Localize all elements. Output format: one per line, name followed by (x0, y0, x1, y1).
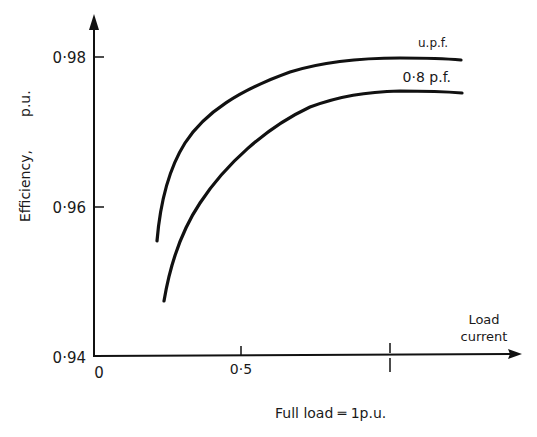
curve-upf (157, 58, 461, 241)
curve-08pf (164, 91, 462, 301)
x-axis-title-line1: Load (468, 312, 499, 327)
efficiency-chart: 0·98 0·96 0·94 Efficiency, p.u. 0 0·5 Lo… (0, 0, 537, 437)
y-axis-arrow-icon (89, 14, 99, 30)
y-tick-label-096: 0·96 (53, 199, 86, 217)
x-axis-title-line2: current (461, 329, 508, 344)
y-axis (89, 14, 104, 357)
series-label-08pf: 0·8 p.f. (403, 69, 451, 85)
x-axis-arrow-icon (508, 349, 522, 359)
x-tick-label-0: 0 (94, 364, 104, 382)
y-tick-label-094: 0·94 (53, 349, 86, 367)
y-axis-title-text: Efficiency, (17, 150, 33, 222)
series-label-upf: u.p.f. (418, 36, 448, 50)
x-axis (94, 343, 522, 372)
y-tick-label-098: 0·98 (53, 49, 86, 67)
x-tick-label-05: 0·5 (230, 361, 252, 377)
y-axis-title: Efficiency, p.u. (17, 90, 33, 222)
footnote-full-load: Full load ═ 1p.u. (275, 405, 386, 421)
y-axis-unit-text: p.u. (17, 90, 33, 117)
